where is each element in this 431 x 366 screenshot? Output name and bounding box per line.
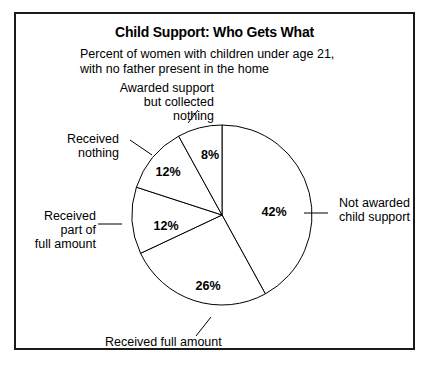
slice-value-label: 26% bbox=[195, 279, 220, 293]
leader-line bbox=[196, 317, 211, 336]
chart-frame: Child Support: Who Gets What Percent of … bbox=[14, 12, 415, 350]
slice-category-label: Awarded supportbut collectednothing bbox=[120, 81, 215, 123]
slice-category-label: Received full amount bbox=[105, 335, 222, 349]
slice-value-label: 12% bbox=[153, 219, 178, 233]
slice-value-label: 42% bbox=[261, 205, 286, 219]
leader-line bbox=[130, 140, 152, 155]
pie-chart: 42%26%12%12%8% Not awardedchild supportR… bbox=[16, 14, 417, 352]
slice-category-label: Not awardedchild support bbox=[339, 196, 410, 224]
slice-category-label: Receivednothing bbox=[67, 132, 119, 160]
slice-category-label: Receivedpart offull amount bbox=[35, 209, 97, 251]
slice-value-label: 12% bbox=[155, 165, 180, 179]
slice-value-label: 8% bbox=[201, 148, 219, 162]
